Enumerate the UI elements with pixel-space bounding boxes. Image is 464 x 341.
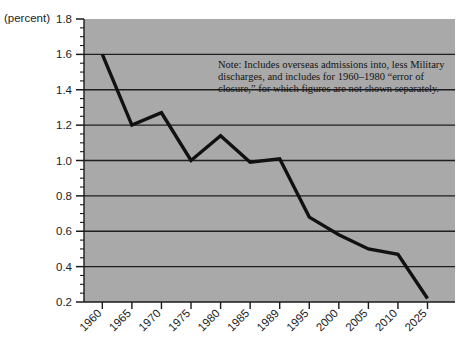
y-axis-unit-label: (percent) bbox=[4, 12, 50, 24]
chart-note-line-3: closure,” for which figures are not show… bbox=[218, 83, 439, 94]
y-axis-tick-label: 0.6 bbox=[56, 225, 72, 237]
y-axis-tick-label: 1.8 bbox=[56, 13, 72, 25]
chart-note-line-2: discharges, and includes for 1960–1980 “… bbox=[218, 71, 424, 82]
y-axis-tick-label: 1.0 bbox=[56, 155, 72, 167]
y-axis-tick-labels: 1.81.61.41.21.00.80.60.40.2 bbox=[56, 13, 73, 308]
y-axis-tick-label: 0.8 bbox=[56, 190, 72, 202]
y-axis-tick-label: 1.4 bbox=[56, 84, 73, 96]
y-axis-tick-label: 0.4 bbox=[56, 261, 73, 273]
y-axis-tick-label: 1.6 bbox=[56, 48, 72, 60]
chart-figure: 1.81.61.41.21.00.80.60.40.2 196019651970… bbox=[0, 0, 464, 341]
chart-note-line-1: Note: Includes overseas admissions into,… bbox=[218, 59, 445, 70]
y-axis-tick-label: 0.2 bbox=[56, 296, 72, 308]
chart-note: Note: Includes overseas admissions into,… bbox=[218, 59, 445, 94]
y-axis-tick-label: 1.2 bbox=[56, 119, 72, 131]
